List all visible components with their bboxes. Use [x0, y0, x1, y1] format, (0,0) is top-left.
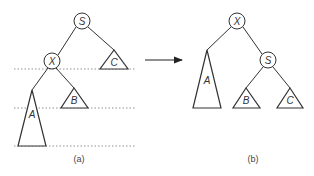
node-x-label: X	[233, 16, 241, 27]
subtree-c-label: C	[110, 57, 118, 68]
edge-x-s	[243, 27, 262, 54]
subtree-c-label: C	[286, 95, 294, 106]
edge-x-a	[207, 27, 231, 50]
edge-s-b	[246, 67, 263, 88]
tree-b: A B C X S (b)	[193, 13, 303, 164]
caption-b: (b)	[248, 154, 259, 164]
caption-a: (a)	[74, 154, 85, 164]
subtree-b-label: B	[243, 95, 250, 106]
node-s-label: S	[265, 55, 272, 66]
subtree-b-label: B	[71, 95, 78, 106]
edge-x-b	[56, 68, 74, 88]
node-s-label: S	[79, 16, 86, 27]
diagram-canvas: C B A S X (a) A B C X S (b)	[0, 0, 314, 176]
subtree-a-label: A	[203, 75, 211, 86]
edge-s-x	[58, 27, 76, 55]
subtree-a-label: A	[28, 109, 36, 120]
node-x-label: X	[48, 56, 56, 67]
tree-a: C B A S X (a)	[14, 13, 135, 164]
edge-x-a	[32, 68, 48, 90]
edge-s-c	[88, 27, 114, 50]
edge-s-c	[273, 67, 290, 88]
